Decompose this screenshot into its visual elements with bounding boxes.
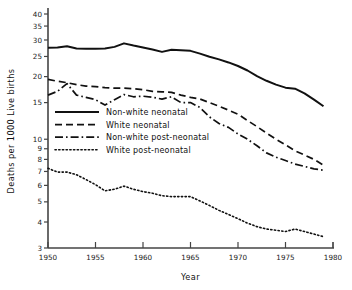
- x-tick-label: 1950: [39, 253, 58, 262]
- legend-label-3: White post-neonatal: [106, 146, 191, 155]
- legend-label-1: White neonatal: [106, 121, 170, 130]
- y-tick-label: 5: [37, 197, 42, 206]
- series-line-3: [48, 168, 324, 236]
- y-tick-label: 20: [33, 72, 43, 81]
- y-axis-title: Deaths per 1000 Live births: [6, 69, 16, 194]
- x-tick-label: 1970: [229, 253, 248, 262]
- y-tick-label: 10: [33, 135, 43, 144]
- x-tick-label: 1955: [86, 253, 104, 262]
- y-tick-label: 40: [33, 10, 43, 19]
- chart-legend: Non-white neonatalWhite neonatalNon-whit…: [55, 108, 209, 155]
- y-tick-label: 9: [37, 144, 42, 153]
- x-tick-label: 1980: [324, 253, 343, 262]
- legend-label-2: Non-white post-neonatal: [106, 133, 209, 142]
- x-axis-title: Year: [180, 272, 200, 282]
- series-line-0: [48, 43, 324, 106]
- y-tick-label: 25: [33, 52, 42, 61]
- y-tick-label: 3: [37, 244, 42, 253]
- y-tick-label: 8: [37, 155, 42, 164]
- legend-label-0: Non-white neonatal: [106, 108, 188, 117]
- x-tick-label: 1965: [181, 253, 199, 262]
- y-tick-label: 4: [37, 218, 42, 227]
- y-tick-label: 30: [33, 36, 43, 45]
- x-tick-label: 1975: [276, 253, 294, 262]
- series-line-2: [48, 84, 324, 171]
- y-tick-label: 7: [37, 167, 42, 176]
- y-tick-label: 35: [33, 22, 42, 31]
- y-tick-label: 15: [33, 98, 42, 107]
- chart-container: 3456789101520253035401950195519601965197…: [0, 0, 352, 290]
- mortality-line-chart: 3456789101520253035401950195519601965197…: [0, 0, 352, 290]
- y-tick-label: 6: [37, 181, 42, 190]
- x-tick-label: 1960: [134, 253, 153, 262]
